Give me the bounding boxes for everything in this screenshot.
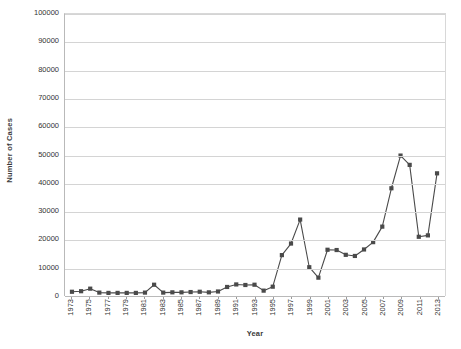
gridline (65, 14, 445, 15)
y-axis-tick-label: 90000 (38, 38, 59, 46)
y-axis-tick-label: 70000 (38, 94, 59, 102)
data-point-marker (344, 253, 348, 257)
y-axis-tick-label: 40000 (38, 179, 59, 187)
gridline (65, 184, 445, 185)
data-point-marker (97, 291, 101, 295)
data-point-marker (207, 290, 211, 294)
data-point-marker (225, 285, 229, 289)
x-axis-tick-label: 1999 (306, 299, 314, 316)
data-point-marker (106, 291, 110, 295)
x-axis-tick-label: 1983 (159, 299, 167, 316)
data-point-marker (125, 291, 129, 295)
x-axis-tick-label: 1997 (287, 299, 295, 316)
data-point-marker (216, 289, 220, 293)
y-axis-tick-label: 80000 (38, 66, 59, 74)
gridline (65, 42, 445, 43)
x-axis-tick-label: 1975 (85, 299, 93, 316)
chart-figure: Number of Cases 010000200003000040000500… (0, 0, 461, 349)
data-point-marker (380, 225, 384, 229)
data-point-marker (170, 290, 174, 294)
series-line (72, 156, 437, 293)
data-point-marker (70, 290, 74, 294)
data-point-marker (335, 248, 339, 252)
data-point-marker (325, 248, 329, 252)
data-point-marker (234, 282, 238, 286)
y-axis-tick-label: 50000 (38, 151, 59, 159)
gridline (65, 156, 445, 157)
x-axis-tick-labels: 1973197519771979198119831985198719891991… (64, 297, 446, 329)
x-axis-tick-label: 1979 (122, 299, 130, 316)
y-axis-tick-label: 10000 (38, 264, 59, 272)
x-axis-tick-label: 2009 (397, 299, 405, 316)
data-point-marker (426, 233, 430, 237)
data-point-marker (134, 291, 138, 295)
plot-area (64, 13, 446, 296)
y-axis-tick-label: 100000 (34, 9, 59, 17)
data-point-marker (408, 163, 412, 167)
x-axis-tick-label: 1991 (232, 299, 240, 316)
y-axis-tick-labels: 0100002000030000400005000060000700008000… (16, 0, 62, 310)
y-axis-tick-label: 60000 (38, 122, 59, 130)
y-axis-tick-label: 0 (55, 292, 59, 300)
data-point-marker (189, 290, 193, 294)
x-axis-tick-label: 1981 (140, 299, 148, 316)
x-axis-tick-label: 1977 (104, 299, 112, 316)
x-axis-tick-label: 2011 (416, 299, 424, 315)
data-point-marker (198, 290, 202, 294)
data-point-marker (152, 283, 156, 287)
data-point-marker (298, 217, 302, 221)
data-point-marker (243, 283, 247, 287)
x-axis-tick-label: 2001 (324, 299, 332, 316)
data-point-marker (271, 285, 275, 289)
data-point-marker (79, 289, 83, 293)
gridline (65, 71, 445, 72)
x-axis-tick-label: 1985 (177, 299, 185, 316)
gridline (65, 127, 445, 128)
x-axis-tick-label: 2013 (434, 299, 442, 316)
data-series (65, 14, 445, 296)
gridline (65, 240, 445, 241)
data-point-marker (316, 276, 320, 280)
data-point-marker (280, 253, 284, 257)
data-point-marker (143, 291, 147, 295)
data-point-marker (417, 235, 421, 239)
x-axis-tick-label: 2003 (342, 299, 350, 316)
y-axis-title-label: Number of Cases (5, 118, 14, 183)
data-point-marker (161, 291, 165, 295)
data-point-marker (116, 291, 120, 295)
x-axis-tick-label: 1987 (195, 299, 203, 316)
y-axis-tick-label: 20000 (38, 236, 59, 244)
data-point-marker (353, 254, 357, 258)
gridline (65, 99, 445, 100)
data-point-marker (389, 186, 393, 190)
data-point-marker (252, 283, 256, 287)
data-point-marker (289, 241, 293, 245)
x-axis-tick-label: 1989 (214, 299, 222, 316)
gridline (65, 269, 445, 270)
x-axis-tick-label: 1973 (67, 299, 75, 316)
y-axis-tick-label: 30000 (38, 207, 59, 215)
gridline (65, 212, 445, 213)
data-point-marker (262, 289, 266, 293)
data-point-marker (179, 290, 183, 294)
x-axis-tick-label: 2005 (361, 299, 369, 316)
x-axis-tick-label: 2007 (379, 299, 387, 316)
data-point-marker (88, 287, 92, 291)
data-point-marker (362, 247, 366, 251)
x-axis-tick-label: 1995 (269, 299, 277, 316)
data-point-marker (435, 171, 439, 175)
x-axis-title: Year (64, 329, 446, 338)
x-axis-tick-label: 1993 (251, 299, 259, 316)
